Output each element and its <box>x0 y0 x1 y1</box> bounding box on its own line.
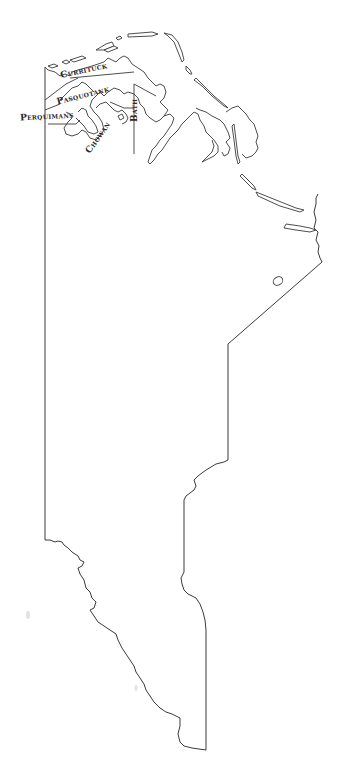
island-currituck-2 <box>62 60 70 64</box>
label-bath: Bath <box>130 99 139 122</box>
island-currituck-5 <box>116 36 122 40</box>
outer-banks-6 <box>240 174 256 190</box>
outer-banks-3 <box>186 66 192 74</box>
island-currituck-1 <box>48 64 58 68</box>
map-canvas: Currituck Pasquotank Perquimans Chowan B… <box>0 0 344 777</box>
small-lake <box>118 114 124 120</box>
outer-banks-1 <box>128 32 158 37</box>
paper-smudge <box>26 611 30 619</box>
outer-banks-7 <box>256 192 304 212</box>
boundary-bath-north <box>134 84 156 96</box>
outer-banks-8 <box>284 224 316 232</box>
territory-outline <box>45 67 322 750</box>
paper-smudge-2 <box>135 685 138 691</box>
inland-lake <box>272 275 285 287</box>
outer-banks-2 <box>164 33 184 62</box>
outer-banks-5 <box>232 124 240 164</box>
island-currituck-3 <box>70 56 86 62</box>
coastline-pamlico <box>148 112 218 164</box>
coastline-neuse <box>226 106 258 158</box>
outer-banks-4 <box>194 78 228 108</box>
